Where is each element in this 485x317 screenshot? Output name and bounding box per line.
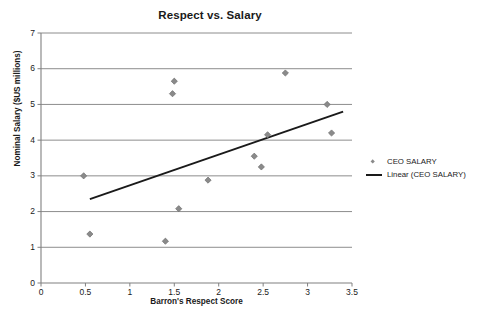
x-tick-label: 3 (293, 288, 323, 297)
data-point-markers (81, 70, 335, 244)
chart-legend: CEO SALARYLinear (CEO SALARY) (364, 155, 484, 181)
data-point-diamond (258, 164, 264, 170)
y-tick-label: 6 (9, 64, 35, 73)
data-point-diamond (176, 206, 182, 212)
x-tick-label: 3.5 (337, 288, 367, 297)
legend-diamond-icon (370, 159, 375, 164)
data-point-diamond (282, 70, 288, 76)
legend-item-label: CEO SALARY (384, 157, 437, 166)
y-tick-label: 0 (9, 279, 35, 288)
data-point-diamond (81, 173, 87, 179)
data-point-diamond (87, 231, 93, 237)
x-tick-label: 0.5 (70, 288, 100, 297)
legend-key-marker (364, 156, 384, 167)
data-point-diamond (324, 101, 330, 107)
legend-item-label: Linear (CEO SALARY) (384, 170, 466, 179)
trendline-segment (90, 112, 343, 200)
y-tick-label: 4 (9, 136, 35, 145)
data-point-diamond (171, 78, 177, 84)
data-point-diamond (251, 153, 257, 159)
data-point-diamond (328, 130, 334, 136)
y-tick-label: 3 (9, 171, 35, 180)
plot-svg (41, 33, 352, 283)
trendline (90, 112, 343, 200)
y-tick-label: 1 (9, 243, 35, 252)
x-tick-label: 2.5 (248, 288, 278, 297)
data-point-diamond (169, 91, 175, 97)
x-tick-label: 0 (26, 288, 56, 297)
chart-container: Respect vs. Salary Nominal Salary ($US m… (0, 0, 485, 317)
chart-title: Respect vs. Salary (0, 9, 420, 21)
x-tick-label: 1.5 (159, 288, 189, 297)
legend-item[interactable]: CEO SALARY (364, 155, 484, 168)
plot-area (41, 33, 352, 283)
x-axis-title: Barron's Respect Score (41, 297, 352, 306)
y-tick-label: 2 (9, 207, 35, 216)
x-tick-label: 1 (115, 288, 145, 297)
legend-line-icon (366, 174, 382, 176)
x-tick-label: 2 (204, 288, 234, 297)
gridlines (41, 33, 352, 247)
legend-item[interactable]: Linear (CEO SALARY) (364, 168, 484, 181)
data-point-diamond (205, 177, 211, 183)
y-tick-label: 5 (9, 100, 35, 109)
data-point-diamond (162, 238, 168, 244)
y-tick-label: 7 (9, 29, 35, 38)
legend-key-line (364, 169, 384, 180)
axis-lines (38, 33, 353, 287)
